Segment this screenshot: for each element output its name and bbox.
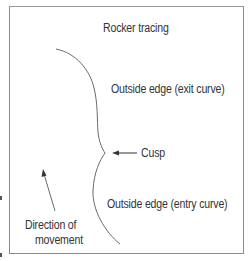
- direction-arrowhead-icon: [42, 169, 47, 177]
- rocker-tracing-curve: [56, 49, 120, 244]
- label-direction-line2: movement: [35, 233, 83, 247]
- label-direction-line1: Direction of: [25, 218, 76, 232]
- direction-arrow-line: [44, 174, 55, 211]
- diagram-title: Rocker tracing: [103, 21, 169, 35]
- label-exit-curve: Outside edge (exit curve): [111, 82, 225, 96]
- label-cusp: Cusp: [141, 146, 165, 160]
- cusp-arrowhead-icon: [112, 151, 119, 156]
- label-entry-curve: Outside edge (entry curve): [107, 197, 227, 211]
